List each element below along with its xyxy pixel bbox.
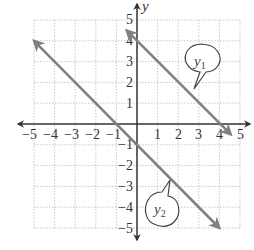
y-tick: 2 (126, 75, 133, 90)
x-tick: −5 (22, 127, 37, 142)
y-tick: 3 (126, 54, 133, 69)
x-tick: 5 (237, 127, 244, 142)
x-tick: 2 (175, 127, 182, 142)
coordinate-graph: y −5 −4 −3 −2 −1 1 2 3 4 5 5 4 3 2 1 −1 … (0, 0, 254, 250)
y-tick: −3 (118, 179, 133, 194)
x-tick: −4 (43, 127, 58, 142)
y-tick: −5 (118, 221, 133, 236)
x-tick: −3 (64, 127, 79, 142)
y-tick: 1 (126, 96, 133, 111)
y-axis-label: y (140, 0, 149, 14)
x-tick: −2 (85, 127, 100, 142)
x-tick: 1 (154, 127, 161, 142)
y-tick: 5 (126, 12, 133, 27)
x-tick: 3 (195, 127, 202, 142)
callout-y2: y2 (146, 180, 179, 226)
y-tick: −4 (118, 200, 133, 215)
x-tick: 4 (216, 127, 223, 142)
y-tick: −2 (118, 158, 133, 173)
